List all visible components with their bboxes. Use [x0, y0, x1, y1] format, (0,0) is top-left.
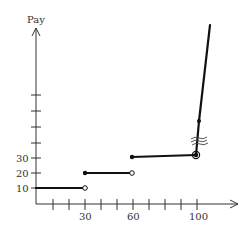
axis-break-icon — [191, 137, 208, 145]
x-tick-label-60: 60 — [127, 211, 140, 222]
closed-endpoint-60 — [130, 155, 134, 159]
segment-steep-rise — [196, 25, 210, 155]
y-tick-label-10: 10 — [16, 183, 29, 194]
x-tick-label-100: 100 — [189, 211, 208, 222]
x-tick-label-30: 30 — [79, 211, 92, 222]
series-lines — [36, 25, 210, 188]
closed-endpoint-100 — [194, 153, 198, 157]
x-axis — [36, 199, 238, 210]
closed-endpoint-30 — [83, 171, 87, 175]
y-tick-label-20: 20 — [16, 168, 29, 179]
y-axis — [31, 28, 41, 204]
y-tick-label-30: 30 — [16, 153, 29, 164]
pay-step-chart: Pay 10 20 30 30 60 100 — [0, 0, 250, 228]
open-endpoint-60 — [130, 171, 135, 176]
rise-point — [197, 119, 201, 123]
y-axis-title: Pay — [27, 14, 45, 25]
segment-step-3 — [132, 155, 196, 157]
open-endpoint-30 — [83, 186, 88, 191]
